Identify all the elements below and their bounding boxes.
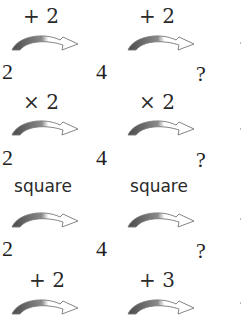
curved-arrow-icon <box>124 115 202 139</box>
curved-arrow-icon <box>8 294 86 318</box>
number: 4 <box>96 238 107 260</box>
unknown-answer: ? <box>196 240 206 262</box>
number: 4 <box>96 61 107 83</box>
edge-mark <box>240 128 241 130</box>
number: 2 <box>2 147 13 169</box>
operation-label: + 2 <box>122 6 192 26</box>
curved-arrow-icon <box>8 115 86 139</box>
curved-arrow-icon <box>8 30 86 54</box>
operation-label: + 2 <box>6 6 76 26</box>
operation-label: + 2 <box>12 270 82 290</box>
edge-mark <box>240 218 241 220</box>
curved-arrow-icon <box>124 30 202 54</box>
operation-label: × 2 <box>6 92 76 112</box>
curved-arrow-icon <box>124 294 202 318</box>
operation-label: square <box>8 176 78 196</box>
unknown-answer: ? <box>196 149 206 171</box>
operation-label: × 2 <box>122 92 192 112</box>
edge-mark <box>240 42 241 44</box>
number: 2 <box>2 238 13 260</box>
edge-mark <box>240 302 241 304</box>
number: 4 <box>96 147 107 169</box>
operation-label: square <box>124 176 194 196</box>
number: 2 <box>2 61 13 83</box>
operation-label: + 3 <box>122 270 192 290</box>
unknown-answer: ? <box>196 63 206 85</box>
curved-arrow-icon <box>124 207 202 231</box>
curved-arrow-icon <box>8 207 86 231</box>
